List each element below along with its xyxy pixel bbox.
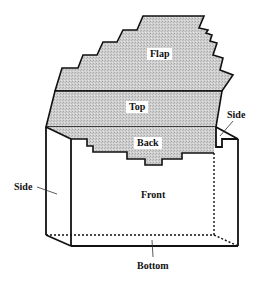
top-label: Top: [126, 101, 148, 113]
bottom-label: Bottom: [137, 260, 169, 272]
back-label: Back: [134, 137, 162, 149]
flap-panel: [55, 16, 233, 91]
flap-label: Flap: [147, 48, 172, 60]
left-side-panel: [46, 127, 71, 246]
side-left-label: Side: [14, 181, 32, 193]
front-label: Front: [141, 189, 165, 201]
box-diagram: [0, 0, 257, 282]
side-right-label: Side: [227, 109, 245, 121]
